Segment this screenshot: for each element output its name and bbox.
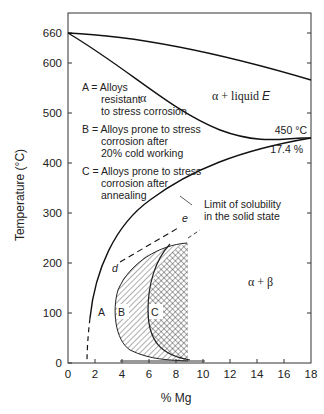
svg-text:0: 0 bbox=[56, 357, 62, 369]
svg-text:600: 600 bbox=[43, 57, 62, 69]
region-b-label: B bbox=[118, 306, 125, 318]
y-tick-labels: 0 100 200 300 400 500 600 660 bbox=[43, 27, 62, 369]
region-a-label: A bbox=[98, 306, 105, 318]
svg-text:B = Alloys prone to stress: B = Alloys prone to stress bbox=[82, 123, 201, 135]
region-c-label: C bbox=[151, 306, 159, 318]
svg-text:500: 500 bbox=[43, 107, 62, 119]
svg-text:annealing: annealing bbox=[101, 189, 147, 201]
dashed-extension bbox=[188, 230, 200, 238]
svg-text:18: 18 bbox=[305, 368, 318, 380]
svg-text:100: 100 bbox=[43, 307, 62, 319]
svg-text:to stress corrosion: to stress corrosion bbox=[101, 105, 187, 117]
x-axis-title: % Mg bbox=[161, 391, 192, 405]
eutectic-temp-label: 450 °C bbox=[275, 124, 308, 136]
svg-text:corrosion after: corrosion after bbox=[101, 135, 169, 147]
solubility-pointer bbox=[180, 196, 192, 205]
eutectic-comp-label: 17.4 % bbox=[270, 143, 303, 155]
point-d-label: d bbox=[112, 262, 119, 274]
svg-text:14: 14 bbox=[251, 368, 264, 380]
alpha-liquid-label: α + liquid E bbox=[212, 89, 271, 103]
svg-text:660: 660 bbox=[43, 27, 62, 39]
alpha-beta-label: α + β bbox=[248, 275, 273, 289]
svg-text:2: 2 bbox=[92, 368, 98, 380]
solubility-label-2: in the solid state bbox=[204, 210, 280, 222]
svg-text:300: 300 bbox=[43, 207, 62, 219]
phase-diagram: 0 100 200 300 400 500 600 660 0 2 4 6 8 … bbox=[0, 0, 324, 414]
svg-text:12: 12 bbox=[224, 368, 237, 380]
y-axis-title: Temperature (°C) bbox=[13, 149, 27, 241]
x-tick-labels: 0 2 4 6 8 10 12 14 16 18 bbox=[65, 368, 318, 380]
svg-text:6: 6 bbox=[146, 368, 152, 380]
svg-text:0: 0 bbox=[65, 368, 71, 380]
svg-text:200: 200 bbox=[43, 257, 62, 269]
svg-text:8: 8 bbox=[173, 368, 179, 380]
svg-text:corrosion after: corrosion after bbox=[101, 177, 169, 189]
svg-text:20% cold working: 20% cold working bbox=[101, 147, 183, 159]
svg-text:400: 400 bbox=[43, 157, 62, 169]
svg-text:4: 4 bbox=[119, 368, 126, 380]
solubility-label-1: Limit of solubility bbox=[204, 198, 282, 210]
solvus-dashed bbox=[87, 318, 90, 363]
svg-text:resistant: resistant bbox=[101, 93, 141, 105]
svg-text:A = Alloys: A = Alloys bbox=[82, 81, 128, 93]
svg-text:10: 10 bbox=[197, 368, 210, 380]
alpha-label: α bbox=[140, 91, 147, 105]
svg-text:C = Alloys prone to stress: C = Alloys prone to stress bbox=[82, 165, 201, 177]
point-e-label: e bbox=[182, 212, 188, 224]
svg-text:16: 16 bbox=[278, 368, 291, 380]
